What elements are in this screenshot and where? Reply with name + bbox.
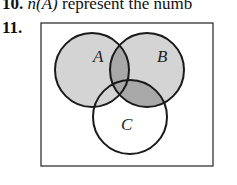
label-a: A — [92, 47, 104, 66]
label-c: C — [121, 115, 133, 134]
label-b: B — [157, 47, 168, 66]
venn-diagram: A B C — [0, 0, 237, 185]
